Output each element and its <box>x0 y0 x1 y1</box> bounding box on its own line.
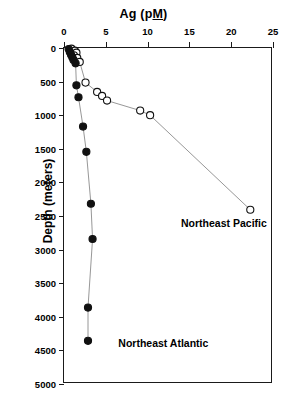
chart-title-before: Ag (p <box>120 7 153 21</box>
data-point <box>87 200 94 207</box>
series-line <box>69 49 93 341</box>
data-point <box>84 304 91 311</box>
x-tick-label: 5 <box>103 26 108 37</box>
data-point <box>72 60 79 67</box>
y-axis-title: Depth (meters) <box>41 159 55 244</box>
data-point <box>247 206 254 213</box>
data-point <box>89 235 96 242</box>
series-line <box>71 49 250 210</box>
y-tick-label: 1500 <box>35 143 56 154</box>
plot-area: 0510152025 05001000150020002500300035004… <box>63 47 272 383</box>
series-northeast-pacific <box>68 45 254 213</box>
data-point <box>75 94 82 101</box>
series-northeast-atlantic <box>65 45 96 344</box>
chart-title-after: ) <box>163 7 167 21</box>
y-tick-mark <box>59 384 64 385</box>
chart-title: Ag (pM) <box>0 7 287 21</box>
y-tick-label: 4000 <box>35 311 56 322</box>
y-tick-label: 3500 <box>35 278 56 289</box>
y-tick-label: 2500 <box>35 211 56 222</box>
data-point <box>137 107 144 114</box>
figure: Ag (pM) Depth (meters) 0510152025 050010… <box>0 0 287 402</box>
data-point <box>84 337 91 344</box>
data-series-layer <box>64 48 271 381</box>
data-point <box>147 112 154 119</box>
data-point <box>82 79 89 86</box>
series-annotation: Northeast Pacific <box>181 217 267 229</box>
x-tick-label: 0 <box>61 26 66 37</box>
x-tick-label: 25 <box>268 26 279 37</box>
data-point <box>73 82 80 89</box>
y-tick-label: 4500 <box>35 345 56 356</box>
y-tick-label: 500 <box>40 76 56 87</box>
chart-title-underlined-unit: M <box>152 7 163 21</box>
x-tick-label: 20 <box>226 26 237 37</box>
y-tick-label: 2000 <box>35 177 56 188</box>
data-point <box>79 123 86 130</box>
series-annotation: Northeast Atlantic <box>118 337 208 349</box>
x-tick-label: 15 <box>184 26 195 37</box>
data-point <box>83 148 90 155</box>
y-tick-label: 0 <box>51 43 56 54</box>
y-tick-label: 5000 <box>35 379 56 390</box>
x-tick-label: 10 <box>142 26 153 37</box>
data-point <box>103 97 110 104</box>
x-tick-mark <box>273 42 274 48</box>
y-tick-label: 1000 <box>35 110 56 121</box>
y-tick-label: 3000 <box>35 244 56 255</box>
